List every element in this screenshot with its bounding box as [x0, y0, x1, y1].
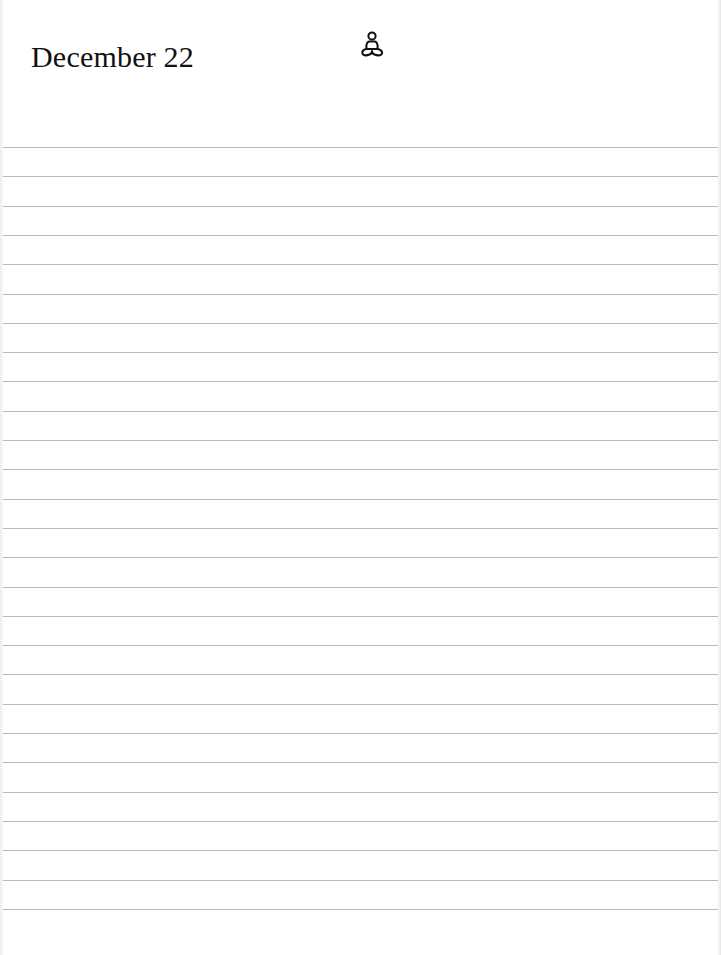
- ruled-line: [3, 792, 718, 793]
- ruled-line: [3, 587, 718, 588]
- ruled-line: [3, 235, 718, 236]
- journal-page: December 22: [0, 0, 721, 955]
- ruled-line: [3, 440, 718, 441]
- ruled-line: [3, 880, 718, 881]
- ruled-line: [3, 206, 718, 207]
- ruled-line: [3, 294, 718, 295]
- ruled-lines[interactable]: [0, 0, 721, 955]
- ruled-line: [3, 499, 718, 500]
- ruled-line: [3, 821, 718, 822]
- ruled-line: [3, 557, 718, 558]
- ruled-line: [3, 323, 718, 324]
- ruled-line: [3, 674, 718, 675]
- ruled-line: [3, 264, 718, 265]
- ruled-line: [3, 381, 718, 382]
- ruled-line: [3, 352, 718, 353]
- ruled-line: [3, 909, 718, 910]
- ruled-line: [3, 147, 718, 148]
- ruled-line: [3, 733, 718, 734]
- ruled-line: [3, 528, 718, 529]
- ruled-line: [3, 645, 718, 646]
- ruled-line: [3, 762, 718, 763]
- ruled-line: [3, 411, 718, 412]
- ruled-line: [3, 469, 718, 470]
- ruled-line: [3, 176, 718, 177]
- ruled-line: [3, 850, 718, 851]
- ruled-line: [3, 704, 718, 705]
- ruled-line: [3, 616, 718, 617]
